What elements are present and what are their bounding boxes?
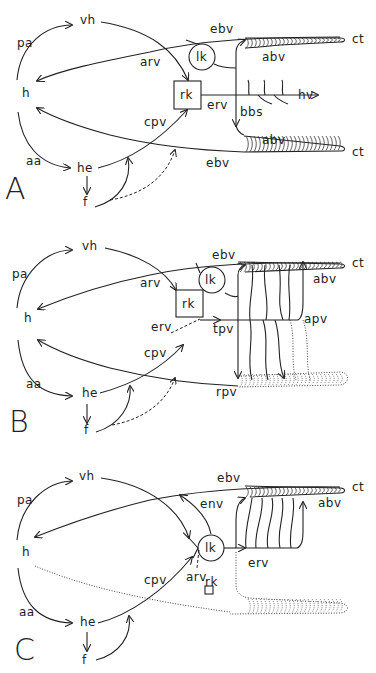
label-hv: hv — [298, 89, 314, 101]
label-he: he — [82, 387, 98, 399]
label-tpv: tpv — [213, 323, 234, 335]
label-arv: arv — [186, 571, 207, 583]
label-lk: lk — [205, 274, 216, 286]
label-bbs: bbs — [240, 106, 263, 118]
panel-c-lines — [17, 478, 348, 660]
circulation-diagram-figure: A vh pa h aa he f arv cpv lk rk erv ebv … — [0, 0, 376, 673]
label-he: he — [80, 616, 96, 628]
panel-letter-b: B — [9, 407, 29, 437]
label-ebv-top: ebv — [210, 23, 234, 35]
panel-letter-c: C — [14, 635, 35, 665]
label-vh: vh — [82, 240, 98, 252]
label-h: h — [24, 312, 32, 324]
label-ebv: ebv — [212, 249, 236, 261]
label-h: h — [22, 87, 30, 99]
label-ct: ct — [352, 481, 364, 493]
label-f: f — [84, 424, 89, 436]
label-rpv: rpv — [216, 386, 237, 398]
label-aa: aa — [26, 155, 42, 167]
label-ebv: ebv — [217, 472, 241, 484]
label-ebv-bottom: ebv — [206, 157, 230, 169]
label-rk: rk — [182, 298, 195, 310]
label-arv: arv — [140, 56, 161, 68]
label-apv: apv — [304, 313, 328, 325]
label-lk: lk — [196, 51, 207, 63]
label-he: he — [77, 162, 93, 174]
panel-b-lines — [17, 248, 348, 432]
label-erv: erv — [207, 99, 228, 111]
label-f: f — [83, 196, 88, 208]
label-rk: rk — [180, 89, 193, 101]
label-abv-bottom: abv — [262, 134, 286, 146]
panel-a-lines — [17, 22, 345, 207]
label-aa: aa — [19, 606, 35, 618]
label-abv: abv — [313, 273, 337, 285]
label-rk: rk — [205, 576, 218, 588]
label-cpv: cpv — [144, 347, 167, 359]
label-env: env — [200, 498, 224, 510]
label-cpv: cpv — [144, 574, 167, 586]
label-abv-top: abv — [262, 51, 286, 63]
label-vh: vh — [79, 470, 95, 482]
panel-letter-a: A — [5, 174, 26, 204]
label-lk: lk — [205, 542, 216, 554]
label-abv: abv — [318, 497, 342, 509]
label-f: f — [82, 654, 87, 666]
label-arv: arv — [140, 277, 161, 289]
label-vh: vh — [80, 14, 96, 26]
label-ct: ct — [352, 257, 364, 269]
label-erv: erv — [151, 321, 172, 333]
label-ct-bottom: ct — [352, 146, 364, 158]
label-pa: pa — [17, 37, 33, 49]
label-h: h — [22, 546, 30, 558]
label-erv: erv — [248, 557, 269, 569]
label-cpv: cpv — [144, 116, 167, 128]
label-pa: pa — [17, 494, 33, 506]
label-aa: aa — [26, 378, 42, 390]
label-pa: pa — [12, 268, 28, 280]
label-ct-top: ct — [352, 33, 364, 45]
